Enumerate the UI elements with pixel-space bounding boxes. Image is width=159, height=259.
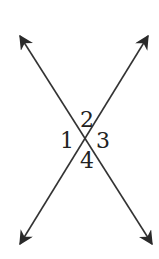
angle-label-4: 4 [80, 148, 94, 173]
angle-label-2: 2 [80, 107, 94, 132]
intersecting-lines-diagram: 1 2 3 4 [0, 0, 159, 259]
angle-label-3: 3 [96, 128, 110, 153]
angle-label-1: 1 [60, 128, 74, 153]
